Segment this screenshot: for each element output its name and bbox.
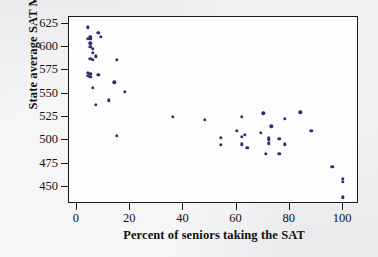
data-point: [113, 81, 116, 84]
data-point: [259, 131, 262, 134]
y-tick-mark: [61, 69, 68, 70]
data-point: [219, 143, 222, 146]
data-point: [171, 115, 174, 118]
y-tick-label: 500: [16, 132, 58, 147]
y-tick-mark: [61, 139, 68, 140]
data-point: [264, 152, 267, 155]
y-tick-label: 475: [16, 155, 58, 170]
data-point: [86, 26, 89, 29]
x-tick-mark: [76, 203, 77, 210]
data-point: [246, 146, 249, 149]
y-tick-label: 550: [16, 85, 58, 100]
x-tick-label: 20: [109, 211, 149, 226]
data-point: [240, 142, 243, 145]
y-tick-label: 525: [16, 109, 58, 124]
x-tick-label: 60: [216, 211, 256, 226]
y-tick-mark: [61, 46, 68, 47]
x-tick-mark: [236, 203, 237, 210]
data-point: [89, 75, 92, 78]
y-tick-mark: [61, 116, 68, 117]
y-tick-mark: [61, 93, 68, 94]
x-tick-label: 40: [162, 211, 202, 226]
data-point: [283, 117, 286, 120]
x-tick-mark: [342, 203, 343, 210]
data-point: [123, 90, 126, 93]
data-point: [269, 125, 272, 128]
data-point: [235, 129, 238, 132]
x-tick-mark: [289, 203, 290, 210]
data-point: [331, 165, 334, 168]
data-point: [219, 136, 222, 139]
data-point: [115, 134, 118, 137]
x-tick-label: 100: [322, 211, 362, 226]
x-tick-label: 0: [56, 211, 96, 226]
y-tick-mark: [61, 163, 68, 164]
data-point: [97, 73, 100, 76]
y-tick-label: 600: [16, 38, 58, 53]
x-tick-mark: [182, 203, 183, 210]
data-point: [91, 86, 94, 89]
data-point: [240, 115, 243, 118]
plot-area: [68, 16, 358, 203]
data-point: [94, 55, 97, 58]
data-point: [243, 133, 246, 136]
data-point: [99, 35, 102, 38]
data-point: [267, 142, 270, 145]
data-point: [94, 103, 97, 106]
x-axis-label: Percent of seniors taking the SAT: [68, 228, 360, 243]
y-tick-mark: [61, 186, 68, 187]
y-tick-mark: [61, 23, 68, 24]
data-point: [91, 58, 94, 61]
data-point: [299, 111, 302, 114]
y-tick-label: 450: [16, 179, 58, 194]
y-tick-label: 625: [16, 15, 58, 30]
x-tick-mark: [129, 203, 130, 210]
data-point: [262, 112, 265, 115]
data-point: [309, 129, 312, 132]
data-point: [277, 152, 280, 155]
data-point: [277, 137, 280, 140]
data-point: [115, 58, 118, 61]
data-point: [89, 37, 92, 40]
data-point: [341, 196, 344, 199]
data-point: [203, 118, 206, 121]
y-tick-label: 575: [16, 62, 58, 77]
data-point: [107, 99, 110, 102]
data-point: [283, 142, 286, 145]
scatter-plot-figure: State average SAT Math score Percent of …: [0, 0, 378, 257]
x-tick-label: 80: [269, 211, 309, 226]
data-point: [341, 180, 344, 183]
